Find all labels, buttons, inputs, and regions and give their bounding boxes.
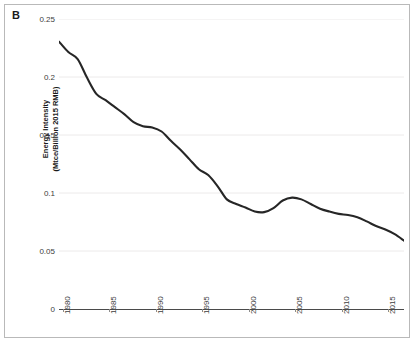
x-tick-label: 1980 bbox=[63, 296, 72, 314]
figure-panel-b: B 0.25 0.2 0.15 0.1 0.05 0 Energy Intens… bbox=[0, 0, 415, 343]
y-tick-label: 0.25 bbox=[39, 15, 55, 24]
x-tick-label: 1990 bbox=[156, 296, 165, 314]
data-line-energy-intensity bbox=[59, 42, 404, 241]
x-axis-tick-labels: 1980 1985 1990 1995 2000 2005 2010 2015 bbox=[0, 309, 415, 343]
x-tick-label: 2015 bbox=[388, 296, 397, 314]
x-tick-label: 2000 bbox=[249, 296, 258, 314]
y-tick-label: 0.05 bbox=[39, 247, 55, 256]
x-tick-label: 2010 bbox=[342, 296, 351, 314]
plot-area bbox=[59, 19, 404, 309]
y-axis-title-line1: Energy Intensity bbox=[41, 69, 51, 189]
x-tick-label: 1985 bbox=[109, 296, 118, 314]
chart-svg bbox=[59, 19, 404, 309]
x-tick-label: 2005 bbox=[295, 296, 304, 314]
x-tick-label: 1995 bbox=[202, 296, 211, 314]
y-tick-label: 0.1 bbox=[44, 189, 55, 198]
